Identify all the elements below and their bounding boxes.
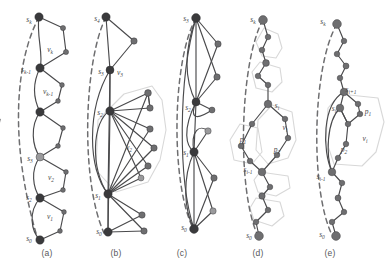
- panel-c-edge-8: [194, 102, 196, 152]
- panel-b-node-b9: [141, 228, 147, 234]
- panel-d-node-d5: [265, 82, 271, 88]
- label-subscript: 1: [50, 216, 53, 222]
- panel-c-node-s-2: [192, 98, 200, 106]
- panel-c-label-s-1: s1: [183, 148, 189, 159]
- label-subscript: 3: [186, 18, 189, 24]
- panel-d-region-4: [254, 172, 290, 196]
- panel-a-node-s-k-1: [36, 64, 44, 72]
- panel-e-label-s-0: s0: [319, 230, 325, 241]
- panel-a-label-s-0: s0: [26, 234, 32, 245]
- panel-c-label-s-0: s0: [181, 223, 187, 234]
- panel-a-node-a10: [62, 210, 67, 215]
- panel-e-node-s-i: [336, 104, 344, 112]
- panel-d-label-v-i: vi: [283, 123, 288, 134]
- label-subscript: k: [50, 49, 52, 55]
- panel-c-edge-0: [196, 18, 218, 44]
- panel-e-label-s-k: sk: [320, 17, 325, 28]
- panel-d-label-p-1: p1: [240, 135, 246, 146]
- label-subscript: 2: [345, 149, 348, 155]
- panel-a-label-v-2: v2: [48, 173, 54, 184]
- panel-d-label-s-i-minus-1: si-1: [244, 165, 253, 176]
- panel-d-node-s-0: [255, 232, 264, 241]
- panel-b-label-v-3: v3: [117, 68, 123, 79]
- panel-b-node-s-3: [106, 66, 114, 74]
- panel-b-edge-2: [106, 17, 110, 70]
- panel-c-edge-12: [194, 152, 214, 178]
- panel-e-node-s-i-1: [328, 168, 336, 176]
- panel-a-parent-virtual-edge: [18, 17, 39, 240]
- panel-c-node-c5: [211, 175, 217, 181]
- panel-e-node-s-0: [332, 232, 341, 241]
- panel-b-node-b7: [138, 175, 144, 181]
- panel-a-node-a8: [64, 170, 69, 175]
- label-subscript: 1: [244, 139, 247, 145]
- panel-e-node-s-k: [333, 20, 342, 29]
- label-subscript: 2: [278, 149, 281, 155]
- panel-b-label-s-1: s1: [95, 191, 101, 202]
- panel-b-label-s-4: s4: [94, 14, 100, 25]
- panel-b-region-0: [96, 86, 166, 192]
- label-subscript: 0: [99, 231, 102, 237]
- panel-b-node-b2: [145, 90, 152, 97]
- label-subscript: 4: [97, 18, 100, 24]
- panel-e-label-p-2: p2: [341, 145, 347, 156]
- panel-b-node-s-2: [106, 107, 114, 115]
- panel-e-node-e3: [343, 63, 349, 69]
- panel-a-edge-7: [35, 68, 40, 112]
- label-subscript: i-1: [246, 169, 252, 175]
- panel-a-edge-15: [34, 157, 40, 198]
- panel-d-node-d1: [265, 34, 271, 40]
- panel-c-edge-3: [196, 44, 218, 102]
- panel-d-region-0: [256, 28, 282, 58]
- panel-b-node-b8: [139, 212, 145, 218]
- label-subscript: 0: [249, 235, 252, 241]
- panel-a-label-s-2: s2: [26, 193, 32, 204]
- label-subscript: i: [366, 138, 368, 144]
- diagram-canvas: [0, 0, 392, 274]
- panel-a-label-s-3: s3: [27, 154, 33, 165]
- panel-e-node-e9: [335, 155, 341, 161]
- label-subscript: 0: [322, 234, 325, 240]
- panel-d-node-d2: [259, 47, 265, 53]
- label-subscript: k: [253, 19, 255, 25]
- panel-b-node-b5: [151, 145, 157, 151]
- panel-e-label-s-i-plus-1: si+1: [346, 85, 357, 96]
- panel-e-node-e4: [337, 75, 343, 81]
- panel-e-label-p-1: p1: [365, 107, 371, 118]
- panel-a-node-s-3: [36, 153, 44, 161]
- label-subscript: i: [335, 108, 337, 114]
- label-subscript: 0: [184, 227, 187, 233]
- panel-a-node-s-2: [36, 194, 44, 202]
- panel-a-label-v-k: vk: [47, 45, 53, 56]
- panel-a-label-v-1: v1: [47, 212, 53, 223]
- panel-e-label-v-i: vi: [363, 134, 368, 145]
- panel-c-edge-18: [186, 152, 194, 229]
- panel-c-node-c3: [209, 107, 215, 113]
- panel-b-edge-1: [110, 41, 134, 70]
- panel-c-node-c1: [215, 41, 221, 47]
- label-subscript: i+1: [349, 89, 357, 95]
- panel-d-node-s-i: [264, 100, 272, 108]
- panel-c-node-c6: [210, 208, 216, 214]
- label-subscript: 2: [129, 147, 132, 153]
- panel-d-label-s-0: s0: [246, 231, 252, 242]
- panel-b-node-s-1: [104, 190, 112, 198]
- label-subscript: 2: [51, 177, 54, 183]
- panel-e-node-e10: [339, 180, 345, 186]
- panel-a-node-a11: [58, 229, 63, 234]
- label-subscript: 2: [100, 112, 103, 118]
- panel-b-label-s-2: s2: [97, 108, 103, 119]
- panel-a-edge-12: [40, 157, 66, 172]
- label-subscript: k-1: [46, 91, 53, 97]
- panel-d-label-p-2: p2: [274, 145, 280, 156]
- panel-a-edge-9: [58, 128, 63, 146]
- panel-b-edge-24: [108, 231, 144, 232]
- panel-e-label-s-i-minus-1: si-1: [317, 172, 326, 183]
- panel-e-node-e5: [355, 101, 361, 107]
- panel-a-node-a5: [36, 108, 44, 116]
- panel-d-node-s-i-1: [258, 168, 266, 176]
- panel-d-node-d12: [267, 184, 273, 190]
- panel-b-edge-0: [106, 17, 134, 41]
- panel-e-edge-11: [346, 124, 348, 144]
- panel-c-node-s-1: [190, 148, 198, 156]
